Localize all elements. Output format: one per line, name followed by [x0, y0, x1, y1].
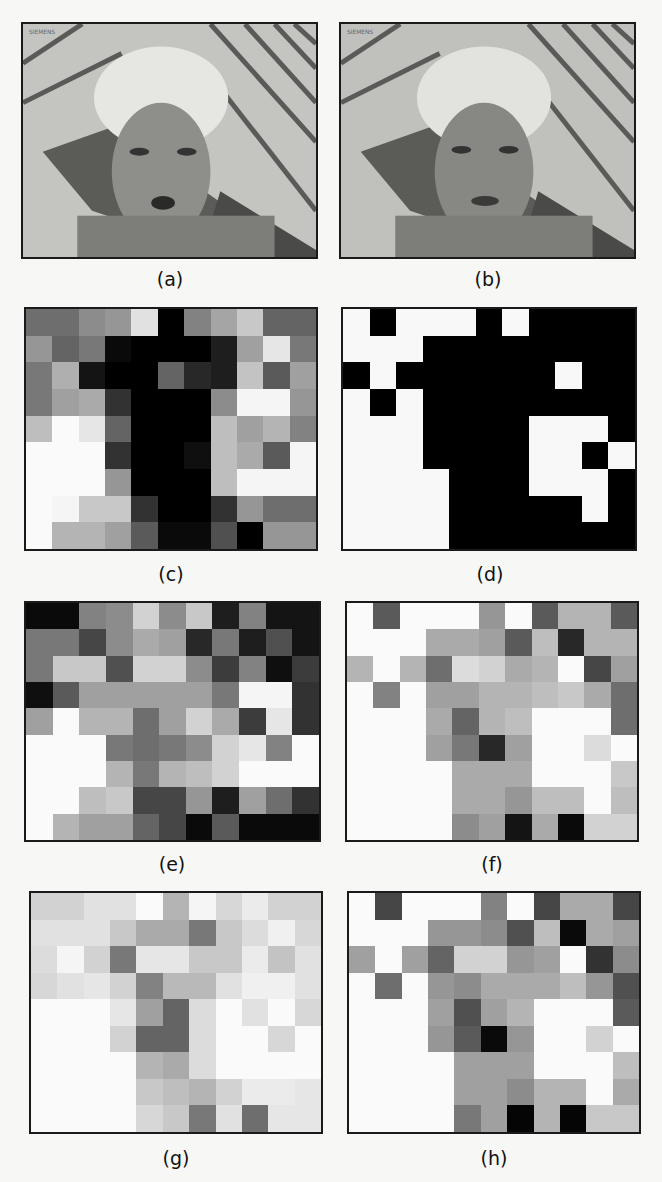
grid-cell [532, 656, 558, 682]
grid-cell [423, 389, 450, 416]
grid-cell [237, 362, 263, 389]
grid-cell [292, 629, 319, 655]
grid-cell [53, 682, 80, 708]
grid-cell [476, 522, 503, 549]
grid-cell [186, 629, 213, 655]
grid-cell [53, 708, 80, 734]
grid-cell [295, 946, 321, 973]
grid-cell [295, 1026, 321, 1053]
grid-cell [481, 1052, 507, 1079]
grid-cell [57, 1105, 83, 1132]
panel-b-label: (b) [458, 268, 518, 290]
grid-cell [400, 814, 426, 840]
grid-cell [52, 442, 78, 469]
grid-cell [295, 973, 321, 1000]
grid-cell [481, 1079, 507, 1106]
grid-cell [502, 469, 529, 496]
grid-cell [159, 656, 186, 682]
grid-cell [449, 522, 476, 549]
grid-cell [79, 496, 105, 523]
grid-cell [532, 682, 558, 708]
grid-cell [529, 469, 556, 496]
grid-cell [479, 682, 505, 708]
panel-d-label: (d) [460, 563, 520, 585]
grid-cell [505, 629, 531, 655]
grid-cell [507, 1079, 533, 1106]
grid-cell [373, 682, 399, 708]
grid-cell [186, 761, 213, 787]
grid-cell [555, 469, 582, 496]
grid-cell [105, 522, 131, 549]
grid-cell [558, 629, 584, 655]
grid-cell [57, 1026, 83, 1053]
grid-cell [375, 1079, 401, 1106]
grid-cell [373, 603, 399, 629]
grid-cell [268, 920, 294, 947]
grid-cell [343, 416, 370, 443]
grid-cell [131, 336, 157, 363]
grid-cell [349, 946, 375, 973]
grid-cell [292, 814, 319, 840]
grid-cell [131, 389, 157, 416]
grid-cell [237, 496, 263, 523]
grid-cell [184, 389, 210, 416]
grid-cell [428, 1052, 454, 1079]
grid-cell [266, 787, 293, 813]
grid-cell [400, 735, 426, 761]
grid-cell [586, 1052, 612, 1079]
grayscale-grid [26, 309, 316, 549]
grid-cell [375, 893, 401, 920]
grid-cell [159, 761, 186, 787]
grid-cell [555, 416, 582, 443]
grid-cell [502, 389, 529, 416]
grid-cell [452, 735, 478, 761]
grid-cell [133, 682, 160, 708]
grid-cell [608, 442, 635, 469]
grid-cell [84, 893, 110, 920]
grid-cell [242, 1026, 268, 1053]
grid-cell [426, 735, 452, 761]
grid-cell [290, 362, 316, 389]
grid-cell [558, 787, 584, 813]
grid-cell [611, 656, 637, 682]
grid-cell [163, 1105, 189, 1132]
grid-cell [400, 682, 426, 708]
grid-cell [428, 999, 454, 1026]
grid-cell [370, 469, 397, 496]
grid-cell [428, 946, 454, 973]
grid-cell [110, 999, 136, 1026]
grid-cell [400, 629, 426, 655]
grid-cell [79, 682, 106, 708]
grid-cell [110, 1026, 136, 1053]
grid-cell [31, 1026, 57, 1053]
grid-cell [242, 1105, 268, 1132]
grid-cell [189, 973, 215, 1000]
grid-cell [105, 362, 131, 389]
grid-cell [239, 708, 266, 734]
grid-cell [505, 761, 531, 787]
grid-cell [375, 1052, 401, 1079]
grid-cell [268, 1052, 294, 1079]
grid-cell [106, 814, 133, 840]
grid-cell [396, 309, 423, 336]
grid-cell [237, 416, 263, 443]
grid-cell [423, 362, 450, 389]
grid-cell [534, 973, 560, 1000]
grid-cell [423, 309, 450, 336]
grid-cell [84, 946, 110, 973]
grid-cell [479, 708, 505, 734]
grid-cell [423, 522, 450, 549]
grid-cell [505, 656, 531, 682]
grid-cell [452, 708, 478, 734]
grid-cell [449, 336, 476, 363]
grid-cell [268, 1079, 294, 1106]
grid-cell [560, 973, 586, 1000]
grid-cell [452, 761, 478, 787]
grid-cell [237, 469, 263, 496]
grid-cell [479, 629, 505, 655]
grid-cell [375, 946, 401, 973]
grid-cell [502, 309, 529, 336]
grid-cell [292, 656, 319, 682]
grid-cell [584, 814, 610, 840]
grid-cell [611, 629, 637, 655]
